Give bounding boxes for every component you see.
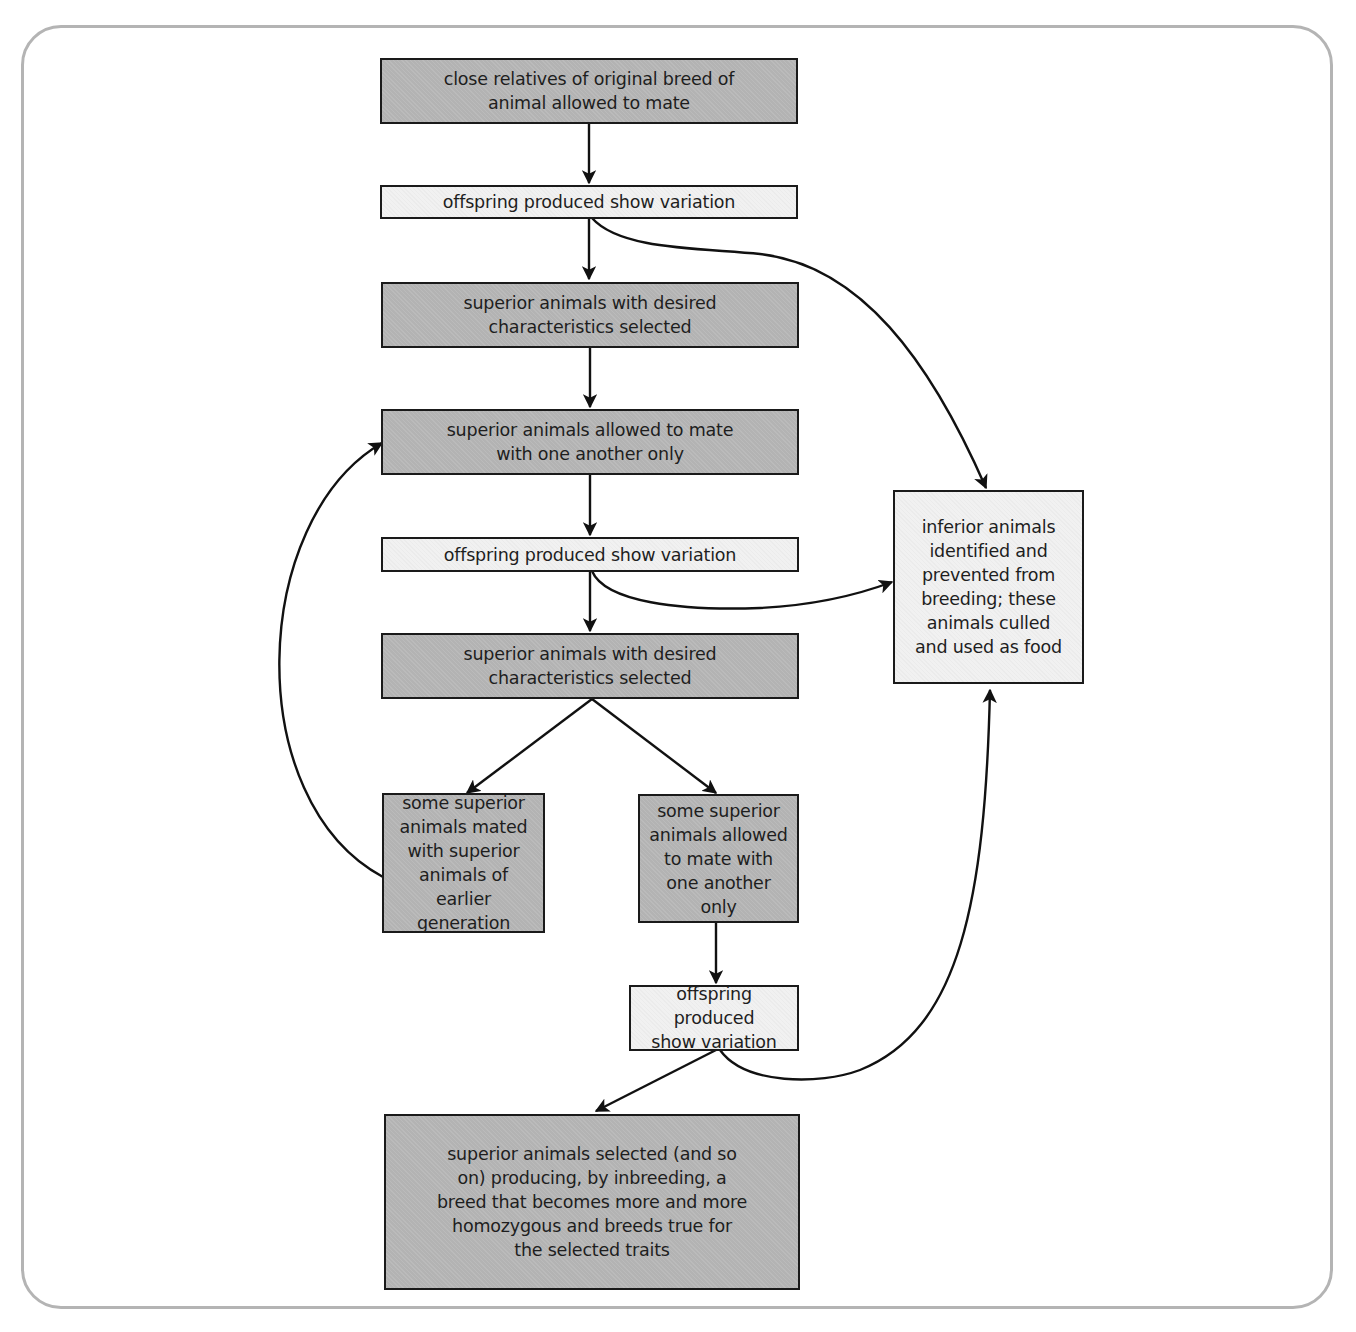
node-mated-earlier-generation: some superior animals mated with superio… <box>382 793 545 933</box>
node-inferior-animals-culled: inferior animals identified and prevente… <box>893 490 1084 684</box>
node-superior-mate-one-another: superior animals allowed to mate with on… <box>381 409 799 475</box>
node-label: offspring produced show variation <box>637 982 791 1054</box>
node-label: inferior animals identified and prevente… <box>915 515 1062 659</box>
node-offspring-variation-2: offspring produced show variation <box>381 537 799 572</box>
node-superior-selected-1: superior animals with desired characteri… <box>381 282 799 348</box>
node-label: superior animals with desired characteri… <box>463 291 716 339</box>
node-offspring-variation-1: offspring produced show variation <box>380 185 798 219</box>
node-label: superior animals allowed to mate with on… <box>447 418 734 466</box>
node-label: superior animals selected (and so on) pr… <box>437 1142 747 1262</box>
node-label: offspring produced show variation <box>444 543 737 567</box>
node-label: offspring produced show variation <box>443 190 736 214</box>
node-superior-selected-2: superior animals with desired characteri… <box>381 633 799 699</box>
node-mate-one-another-only: some superior animals allowed to mate wi… <box>638 794 799 923</box>
node-label: close relatives of original breed of ani… <box>444 67 735 115</box>
node-offspring-variation-3: offspring produced show variation <box>629 985 799 1051</box>
node-label: some superior animals allowed to mate wi… <box>649 799 787 919</box>
node-label: superior animals with desired characteri… <box>463 642 716 690</box>
node-inbred-breed-result: superior animals selected (and so on) pr… <box>384 1114 800 1290</box>
node-close-relatives-mate: close relatives of original breed of ani… <box>380 58 798 124</box>
node-label: some superior animals mated with superio… <box>390 791 537 935</box>
